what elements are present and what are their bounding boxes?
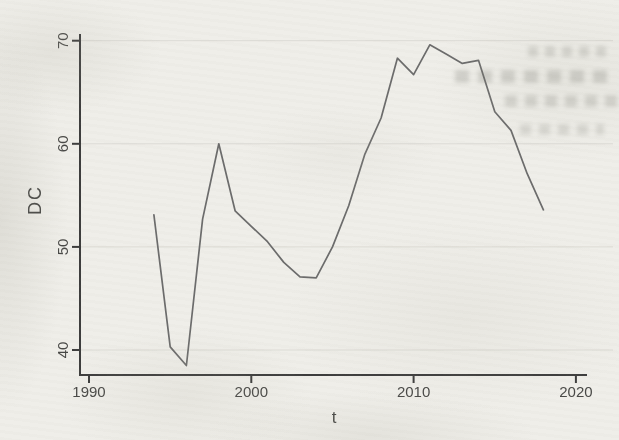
x-axis-label: t — [332, 408, 337, 427]
line-chart: 405060701990200020102020 DC t — [0, 0, 619, 440]
y-tick-label-60: 60 — [54, 135, 71, 152]
axis-ticks — [72, 41, 576, 383]
y-axis-label: DC — [25, 185, 45, 215]
y-tick-label-40: 40 — [54, 342, 71, 359]
y-tick-label-50: 50 — [54, 239, 71, 256]
x-tick-label-2000: 2000 — [235, 383, 268, 400]
dc-series-line — [154, 45, 544, 366]
x-tick-label-1990: 1990 — [72, 383, 105, 400]
axes — [79, 34, 587, 376]
y-tick-label-70: 70 — [54, 32, 71, 49]
tick-labels: 405060701990200020102020 — [54, 32, 592, 400]
x-tick-label-2020: 2020 — [559, 383, 592, 400]
gridlines — [80, 41, 613, 350]
x-tick-label-2010: 2010 — [397, 383, 430, 400]
scanned-page: 405060701990200020102020 DC t — [0, 0, 619, 440]
